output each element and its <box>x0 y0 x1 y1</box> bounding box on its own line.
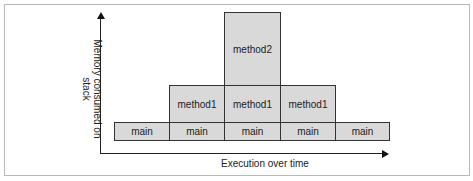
stack-frame-method1: method1 <box>169 85 225 123</box>
stack-frame-main: main <box>224 122 281 141</box>
x-axis-arrow-icon <box>382 150 389 158</box>
stack-frame-method1: method1 <box>224 85 281 123</box>
y-axis-label: Memory consumed on stack <box>81 29 103 149</box>
x-axis <box>100 153 383 154</box>
stack-frame-main: main <box>335 122 390 141</box>
stack-frame-main: main <box>169 122 225 141</box>
stack-frame-method2: method2 <box>224 12 281 86</box>
x-axis-label: Execution over time <box>200 158 330 169</box>
stack-frame-main: main <box>280 122 336 141</box>
y-axis-arrow-icon <box>97 12 105 19</box>
stack-frame-method1: method1 <box>280 85 336 123</box>
stack-frame-main: main <box>114 122 170 141</box>
